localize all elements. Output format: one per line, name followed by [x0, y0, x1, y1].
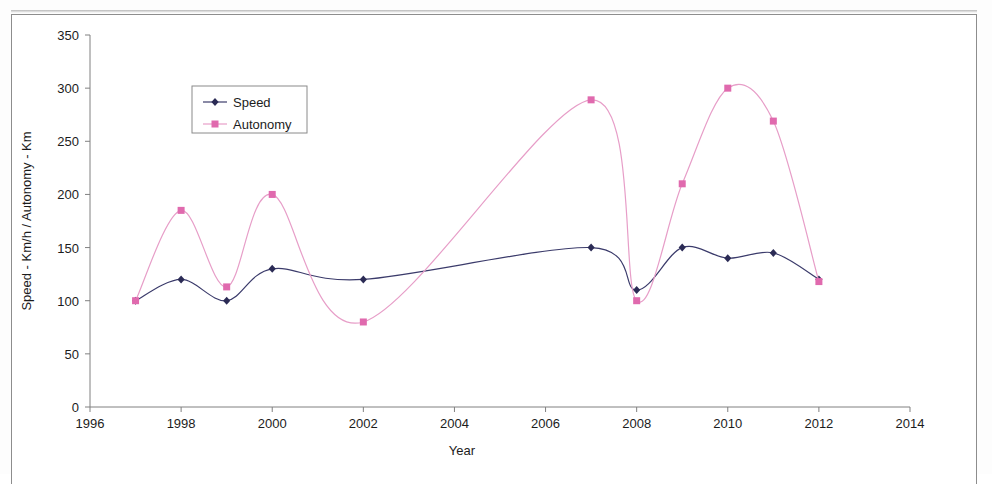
data-point-marker	[633, 286, 640, 294]
x-tick-label: 2014	[896, 416, 925, 431]
data-point-marker	[178, 207, 185, 214]
legend-label: Autonomy	[233, 117, 292, 132]
y-tick-label: 150	[57, 241, 79, 256]
data-point-marker	[724, 254, 731, 262]
x-tick-label: 2002	[349, 416, 378, 431]
y-tick-label: 200	[57, 187, 79, 202]
data-point-marker	[588, 96, 595, 103]
y-axis-title: Speed - Km/h / Autonomy - Km	[19, 131, 34, 310]
x-tick-label: 2006	[531, 416, 560, 431]
data-point-marker	[223, 297, 230, 305]
x-tick-label: 1998	[167, 416, 196, 431]
y-tick-label: 100	[57, 294, 79, 309]
data-point-marker	[269, 265, 276, 273]
data-point-marker	[770, 249, 777, 257]
y-axis-tick-labels: 050100150200250300350	[57, 28, 79, 415]
x-tick-label: 2000	[258, 416, 287, 431]
data-point-marker	[132, 297, 139, 304]
x-axis-ticks	[90, 407, 910, 412]
data-point-marker	[269, 191, 276, 198]
data-point-marker	[633, 297, 640, 304]
y-tick-label: 250	[57, 134, 79, 149]
data-point-marker	[724, 85, 731, 92]
legend-label: Speed	[233, 95, 271, 110]
y-tick-label: 350	[57, 28, 79, 43]
series-line	[136, 246, 819, 300]
x-tick-label: 2004	[440, 416, 469, 431]
y-axis-ticks	[85, 35, 90, 407]
data-point-marker	[223, 283, 230, 290]
y-tick-label: 300	[57, 81, 79, 96]
data-point-marker	[679, 180, 686, 187]
data-point-marker	[679, 244, 686, 252]
chart-legend: SpeedAutonomy	[192, 86, 307, 133]
y-tick-label: 0	[72, 400, 79, 415]
x-tick-label: 1996	[76, 416, 105, 431]
legend-marker	[212, 121, 219, 128]
x-tick-label: 2008	[622, 416, 651, 431]
data-point-marker	[178, 275, 185, 283]
data-point-marker	[360, 275, 367, 283]
y-tick-label: 50	[65, 347, 79, 362]
x-tick-label: 2010	[713, 416, 742, 431]
data-point-marker	[588, 244, 595, 252]
data-point-marker	[770, 118, 777, 125]
x-axis-title: Year	[449, 443, 476, 458]
x-axis-tick-labels: 1996199820002002200420062008201020122014	[76, 416, 925, 431]
data-point-marker	[815, 278, 822, 285]
data-point-marker	[360, 318, 367, 325]
x-tick-label: 2012	[804, 416, 833, 431]
